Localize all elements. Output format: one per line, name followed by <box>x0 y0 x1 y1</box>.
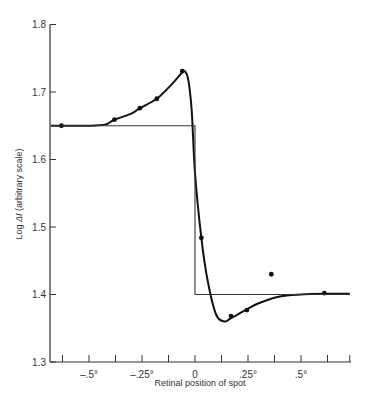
y-tick-label: 1.4 <box>32 289 46 300</box>
data-point <box>269 272 274 277</box>
y-tick-label: 1.5 <box>32 222 46 233</box>
x-axis-title: Retinal position of spot <box>154 378 246 388</box>
fitted-curve <box>51 71 350 322</box>
y-tick-label: 1.7 <box>32 87 46 98</box>
x-tick-label: .5° <box>295 369 307 380</box>
ticks <box>50 25 350 363</box>
y-tick-label: 1.8 <box>32 19 46 30</box>
y-axis-title-suffix: (arbitrary scale) <box>14 148 24 213</box>
y-tick-label: 1.6 <box>32 154 46 165</box>
x-tick-label: –.25° <box>130 369 153 380</box>
tick-labels: 1.31.41.51.61.71.8–.5°–.25°0.25°.5° <box>32 19 307 380</box>
y-axis-title-symbol: ΔI <box>14 213 24 223</box>
y-axis-title: Log ΔI (arbitrary scale) <box>14 148 24 239</box>
step-function-line <box>51 126 350 295</box>
chart-canvas: 1.31.41.51.61.71.8–.5°–.25°0.25°.5° Reti… <box>0 0 370 408</box>
series <box>51 69 350 322</box>
axes <box>50 25 351 363</box>
y-tick-label: 1.3 <box>32 357 46 368</box>
y-axis-title-prefix: Log <box>14 222 24 240</box>
x-tick-label: –.5° <box>80 369 98 380</box>
